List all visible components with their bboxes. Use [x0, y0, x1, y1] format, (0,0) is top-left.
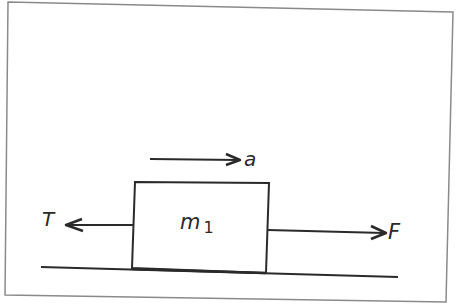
diagram-canvas: a T F m1 [0, 0, 456, 305]
acceleration-label: a [244, 149, 256, 169]
mass-label: m1 [180, 212, 214, 233]
force-label: F [388, 222, 400, 243]
tension-label: T [42, 209, 54, 229]
mass-symbol: m [180, 210, 200, 234]
mass-subscript: 1 [203, 218, 213, 237]
